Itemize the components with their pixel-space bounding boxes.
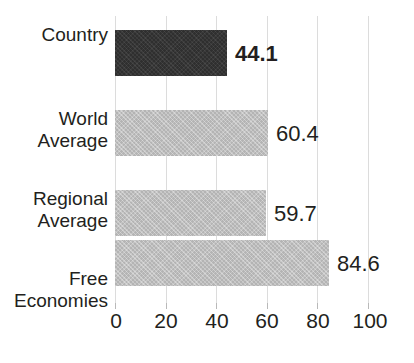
x-tick-label-80: 80	[306, 308, 329, 334]
x-axis-labels: 0 20 40 60 80 100	[0, 308, 414, 342]
value-label-regional-average: 59.7	[274, 203, 317, 225]
x-tick-label-0: 0	[110, 308, 122, 334]
category-label-world-average: World Average	[0, 108, 108, 152]
bar-world-average	[115, 110, 268, 156]
plot-area: 44.1 60.4 59.7 84.6	[115, 16, 368, 303]
bar-country	[115, 30, 227, 76]
category-label-country: Country	[0, 24, 108, 46]
value-label-world-average: 60.4	[276, 123, 319, 145]
category-axis: Country World Average Regional Average F…	[0, 16, 108, 303]
chart-title-cropped	[0, 0, 414, 7]
x-tick-label-100: 100	[352, 308, 387, 334]
x-tick-label-40: 40	[205, 308, 228, 334]
x-tick-label-20: 20	[154, 308, 177, 334]
bar-free-economies	[115, 240, 329, 286]
bar-regional-average	[115, 190, 266, 236]
x-tick-label-60: 60	[255, 308, 278, 334]
value-label-free-economies: 84.6	[337, 253, 380, 275]
category-label-regional-average: Regional Average	[0, 188, 108, 232]
bar-chart: Country World Average Regional Average F…	[0, 0, 414, 363]
category-label-free-economies: Free Economies	[0, 268, 108, 312]
value-label-country: 44.1	[235, 43, 278, 65]
